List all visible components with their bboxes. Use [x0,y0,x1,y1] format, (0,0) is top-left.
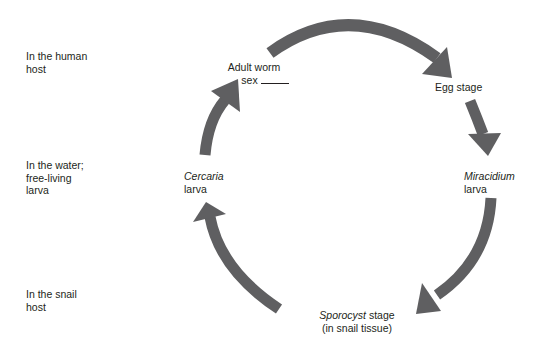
row-label-line: In the snail [26,288,77,301]
stage-label: (in snail tissue) [297,322,417,335]
arrow-sporocyst-to-cercaria-icon [193,202,279,309]
row-label-human-host: In the human host [26,50,87,75]
row-label-line: host [26,301,77,314]
stage-label-italic: Cercaria [184,170,224,183]
stage-label: larva [184,183,224,196]
row-label-line: free-living [26,172,84,185]
sex-blank-field [261,74,289,84]
stage-label-italic: Miracidium [464,170,515,183]
arrow-miracidium-to-sporocyst-icon [416,198,491,314]
stage-cercaria: Cercaria larva [184,170,224,195]
arrow-adult-to-egg-icon [270,25,452,78]
stage-adult-worm: Adult worm sex [214,61,294,86]
stage-label-italic: Sporocyst [319,309,366,321]
arrow-egg-to-miracidium-icon [468,101,501,156]
row-label-line: In the water; [26,159,84,172]
row-label-line: larva [26,184,84,197]
row-label-line: host [26,63,87,76]
row-label-water: In the water; free-living larva [26,159,84,197]
stage-label: Egg stage [435,81,482,94]
row-label-snail-host: In the snail host [26,288,77,313]
stage-sporocyst: Sporocyst stage (in snail tissue) [297,309,417,334]
row-label-line: In the human [26,50,87,63]
stage-label: larva [464,183,515,196]
stage-egg: Egg stage [435,81,482,94]
stage-label-line1: Sporocyst stage [297,309,417,322]
arrow-cercaria-to-adult-icon [205,79,240,155]
sex-label: sex [241,74,257,86]
stage-label-sex-line: sex [214,74,294,87]
life-cycle-diagram: In the human host In the water; free-liv… [0,0,544,349]
stage-label-suffix: stage [366,309,395,321]
stage-label: Adult worm [214,61,294,74]
stage-miracidium: Miracidium larva [464,170,515,195]
